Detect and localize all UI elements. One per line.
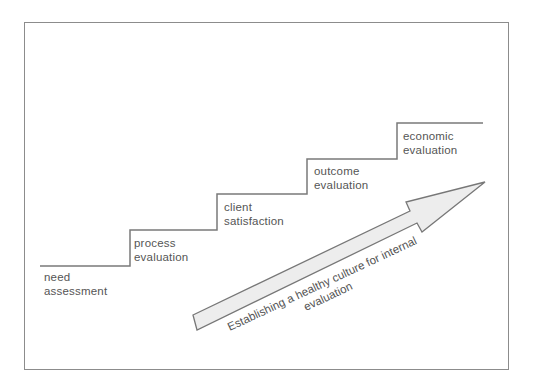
step-client-satisfaction: client satisfaction [224, 200, 284, 228]
step-label-line2: evaluation [403, 143, 457, 157]
step-label-line2: satisfaction [224, 214, 284, 228]
step-need-assessment: need assessment [44, 270, 107, 298]
step-process-evaluation: process evaluation [134, 236, 188, 264]
step-label-line1: process [134, 236, 188, 250]
step-label-line1: need [44, 270, 107, 284]
step-label-line1: economic [403, 129, 457, 143]
step-economic-evaluation: economic evaluation [403, 129, 457, 157]
step-label-line2: assessment [44, 284, 107, 298]
step-label-line1: client [224, 200, 284, 214]
step-outcome-evaluation: outcome evaluation [314, 164, 368, 192]
step-label-line1: outcome [314, 164, 368, 178]
step-label-line2: evaluation [134, 250, 188, 264]
step-label-line2: evaluation [314, 178, 368, 192]
